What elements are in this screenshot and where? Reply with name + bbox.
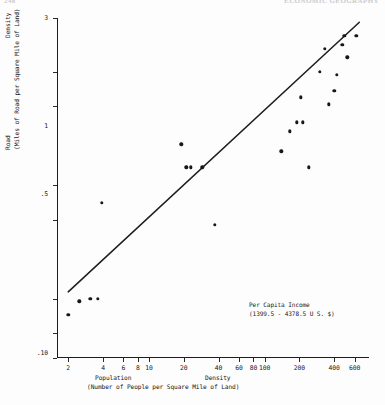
data-point [335, 73, 338, 76]
data-point [323, 47, 326, 50]
data-point [201, 165, 204, 168]
x-tick [253, 358, 254, 362]
data-point [295, 121, 298, 124]
y-axis-title-word-2: Density [4, 13, 13, 38]
y-tick-label: .10 [37, 349, 48, 357]
data-point [318, 70, 321, 73]
data-point [180, 143, 183, 146]
data-point [100, 201, 103, 204]
x-tick-label: 10 [145, 364, 153, 372]
data-point [355, 34, 358, 37]
x-tick [103, 358, 104, 362]
data-point [78, 300, 81, 303]
y-tick: .010 [53, 299, 57, 300]
annotation-line-2: (1399.5 - 4378.5 U S. $) [249, 309, 335, 318]
y-tick: .5 [53, 106, 57, 107]
x-tick-label: 80 [250, 364, 258, 372]
data-point [96, 297, 99, 300]
y-tick: 3 [53, 18, 57, 19]
data-point [189, 165, 192, 168]
y-tick: 1 [53, 72, 57, 73]
annotation-per-capita-income: Per Capita Income (1399.5 - 4378.5 U S. … [249, 300, 335, 318]
y-tick-label: 3 [44, 14, 48, 22]
y-axis-title-word-1: Road [4, 135, 13, 150]
x-tick [149, 358, 150, 362]
scatter-plot: .003.005.010.05.10.513 24681020406080100… [57, 18, 369, 358]
data-point [332, 89, 335, 92]
data-point [299, 96, 302, 99]
x-tick [355, 358, 356, 362]
x-tick-label: 8 [136, 364, 140, 372]
x-tick-label: 200 [294, 364, 305, 372]
y-tick: .003 [53, 358, 57, 359]
x-tick-label: 60 [235, 364, 243, 372]
x-tick [68, 358, 69, 362]
x-tick [123, 358, 124, 362]
x-tick-label: 4 [101, 364, 105, 372]
x-tick [265, 358, 266, 362]
y-axis-line [57, 18, 58, 358]
data-point [307, 165, 310, 168]
y-tick: .005 [53, 333, 57, 334]
x-tick [334, 358, 335, 362]
data-point [288, 130, 291, 133]
x-tick-label: 40 [215, 364, 223, 372]
data-point [66, 313, 69, 316]
x-axis-title: Population Density (Number of People per… [57, 374, 369, 391]
y-axis-title: Road Density (Miles of Road per Square M… [4, 0, 21, 150]
x-axis-title-word-2: Density [205, 374, 230, 383]
annotation-line-1: Per Capita Income [249, 300, 335, 309]
figure-page: 248 ECONOMIC GEOGRAPHY .003.005.010.05.1… [0, 0, 385, 405]
x-tick-label: 600 [349, 364, 360, 372]
data-point [185, 165, 188, 168]
data-point [280, 150, 283, 153]
data-point [301, 121, 304, 124]
y-tick: .05 [53, 220, 57, 221]
x-tick-label: 400 [329, 364, 340, 372]
data-point [213, 223, 216, 226]
x-tick-label: 6 [121, 364, 125, 372]
x-tick-label: 20 [180, 364, 188, 372]
data-point [343, 34, 346, 37]
page-header-right: ECONOMIC GEOGRAPHY [284, 0, 379, 4]
data-point [327, 103, 330, 106]
x-tick [299, 358, 300, 362]
y-tick-label: .5 [41, 190, 49, 198]
x-tick [239, 358, 240, 362]
y-tick-label: 1 [44, 122, 48, 130]
data-point [341, 43, 344, 46]
x-tick [219, 358, 220, 362]
x-axis-title-word-1: Population [95, 374, 131, 383]
x-axis-title-sub: (Number of People per Square Mile of Lan… [57, 383, 369, 392]
x-tick-label: 2 [66, 364, 70, 372]
y-tick: .10 [53, 185, 57, 186]
x-tick [138, 358, 139, 362]
data-point [89, 297, 92, 300]
y-axis-title-sub: (Miles of Road per Square Mile of Land) [13, 0, 22, 150]
data-point [346, 56, 349, 59]
x-tick-label: 100 [259, 364, 270, 372]
x-tick [184, 358, 185, 362]
